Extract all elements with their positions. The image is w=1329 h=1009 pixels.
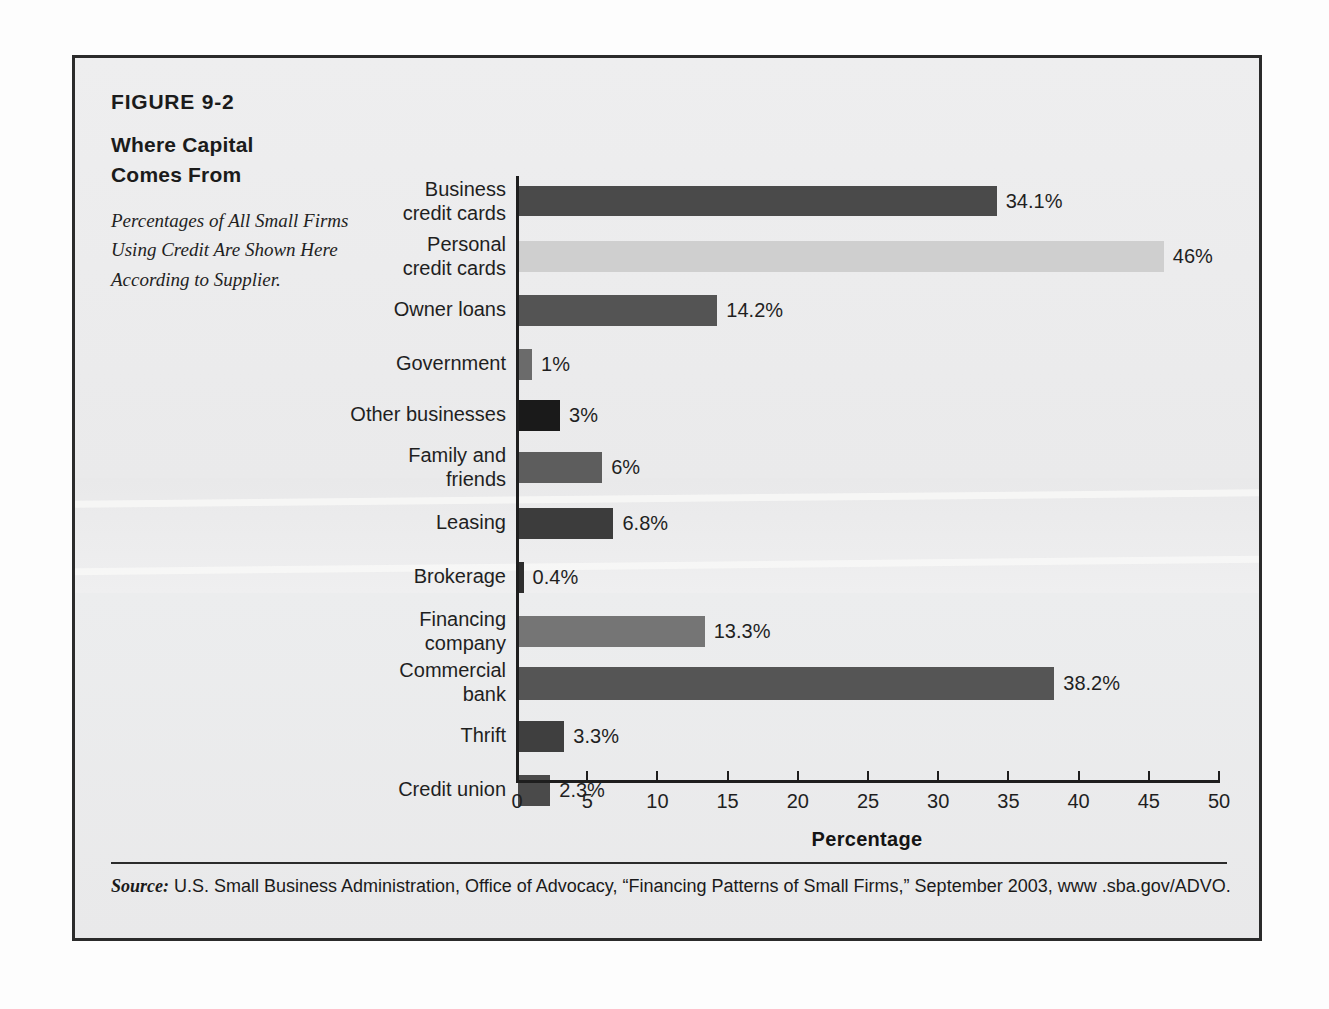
bar xyxy=(518,241,1164,272)
bar xyxy=(518,349,532,380)
bar-row: Government1% xyxy=(75,349,1259,380)
bar-category-label: Credit union xyxy=(75,778,516,802)
bar-category-label-line: Thrift xyxy=(75,724,506,748)
bar-row: Other businesses3% xyxy=(75,400,1259,431)
bar-category-label: Thrift xyxy=(75,724,516,748)
source-divider xyxy=(111,862,1227,864)
figure-number: FIGURE 9-2 xyxy=(111,90,361,114)
bar-value-label: 14.2% xyxy=(726,299,783,322)
bar-category-label-line: Owner loans xyxy=(75,298,506,322)
bar-value-label: 3.3% xyxy=(573,725,619,748)
source-text: U.S. Small Business Administration, Offi… xyxy=(169,876,1231,896)
x-axis-tick xyxy=(586,771,588,781)
x-axis-tick xyxy=(656,771,658,781)
bar-value-label: 38.2% xyxy=(1063,672,1120,695)
x-axis-tick xyxy=(516,771,518,781)
source-note: Source: U.S. Small Business Administrati… xyxy=(111,873,1236,900)
x-axis-tick xyxy=(1218,771,1220,781)
bar-row: Financingcompany13.3% xyxy=(75,616,1259,647)
x-axis-tick-label: 10 xyxy=(646,790,668,813)
figure-frame: FIGURE 9-2 Where Capital Comes From Perc… xyxy=(72,55,1262,941)
bar xyxy=(518,508,613,539)
x-axis-tick-label: 50 xyxy=(1208,790,1230,813)
bar-category-label: Owner loans xyxy=(75,298,516,322)
bar-category-label-line: Government xyxy=(75,352,506,376)
bar-value-label: 0.4% xyxy=(533,566,579,589)
bar-category-label-line: Credit union xyxy=(75,778,506,802)
bar xyxy=(518,616,705,647)
bar-category-label: Brokerage xyxy=(75,565,516,589)
x-axis-tick-label: 40 xyxy=(1067,790,1089,813)
bar-category-label-line: Leasing xyxy=(75,511,506,535)
x-axis-tick xyxy=(1148,771,1150,781)
bar-row: Brokerage0.4% xyxy=(75,562,1259,593)
x-axis-tick-label: 5 xyxy=(582,790,593,813)
bar-category-label: Leasing xyxy=(75,511,516,535)
bar-value-label: 46% xyxy=(1173,245,1213,268)
bar-category-label-line: Financing xyxy=(75,608,506,632)
x-axis-tick xyxy=(867,771,869,781)
figure-title-line-2: Comes From xyxy=(111,160,361,190)
bar-row: Owner loans14.2% xyxy=(75,295,1259,326)
bar-value-label: 1% xyxy=(541,353,570,376)
bar-value-label: 6.8% xyxy=(622,512,668,535)
bar xyxy=(518,186,997,216)
x-axis-tick-label: 45 xyxy=(1138,790,1160,813)
bar xyxy=(518,295,717,326)
bar-row: Thrift3.3% xyxy=(75,721,1259,752)
figure-title-line-1: Where Capital xyxy=(111,130,361,160)
x-axis-tick-label: 15 xyxy=(716,790,738,813)
bar-category-label-line: Other businesses xyxy=(75,403,506,427)
bar-category-label-line: Brokerage xyxy=(75,565,506,589)
bar-category-label-line: bank xyxy=(75,683,506,707)
bar-category-label-line: company xyxy=(75,632,506,656)
bar xyxy=(518,721,564,752)
bar-row: Leasing6.8% xyxy=(75,508,1259,539)
x-axis-tick xyxy=(1007,771,1009,781)
x-axis-tick xyxy=(727,771,729,781)
bar xyxy=(518,667,1054,700)
bar-category-label-line: friends xyxy=(75,468,506,492)
bar-category-label: Commercialbank xyxy=(75,659,516,706)
bar-value-label: 34.1% xyxy=(1006,190,1063,213)
bar-category-label-line: Commercial xyxy=(75,659,506,683)
caption-block: FIGURE 9-2 Where Capital Comes From Perc… xyxy=(111,90,361,294)
bar-row: Commercialbank38.2% xyxy=(75,667,1259,700)
bar-category-label: Other businesses xyxy=(75,403,516,427)
bar-category-label: Government xyxy=(75,352,516,376)
source-label: Source: xyxy=(111,876,169,896)
x-axis-tick-label: 35 xyxy=(997,790,1019,813)
x-axis-tick xyxy=(937,771,939,781)
y-axis-line xyxy=(516,176,519,780)
x-axis-tick-label: 20 xyxy=(787,790,809,813)
bar-category-label: Family andfriends xyxy=(75,444,516,491)
bar-category-label: Financingcompany xyxy=(75,608,516,655)
bar-value-label: 3% xyxy=(569,404,598,427)
x-axis-tick-label: 0 xyxy=(511,790,522,813)
figure-description: Percentages of All Small Firms Using Cre… xyxy=(111,206,361,294)
x-axis-tick xyxy=(1078,771,1080,781)
bar xyxy=(518,452,602,483)
bar-value-label: 13.3% xyxy=(714,620,771,643)
x-axis-tick xyxy=(797,771,799,781)
x-axis-title: Percentage xyxy=(516,828,1218,851)
bar-value-label: 6% xyxy=(611,456,640,479)
bar-category-label-line: Family and xyxy=(75,444,506,468)
bar xyxy=(518,400,560,431)
x-axis-tick-label: 30 xyxy=(927,790,949,813)
x-axis-tick-label: 25 xyxy=(857,790,879,813)
figure-page: FIGURE 9-2 Where Capital Comes From Perc… xyxy=(0,0,1329,1009)
bar-row: Family andfriends6% xyxy=(75,452,1259,483)
